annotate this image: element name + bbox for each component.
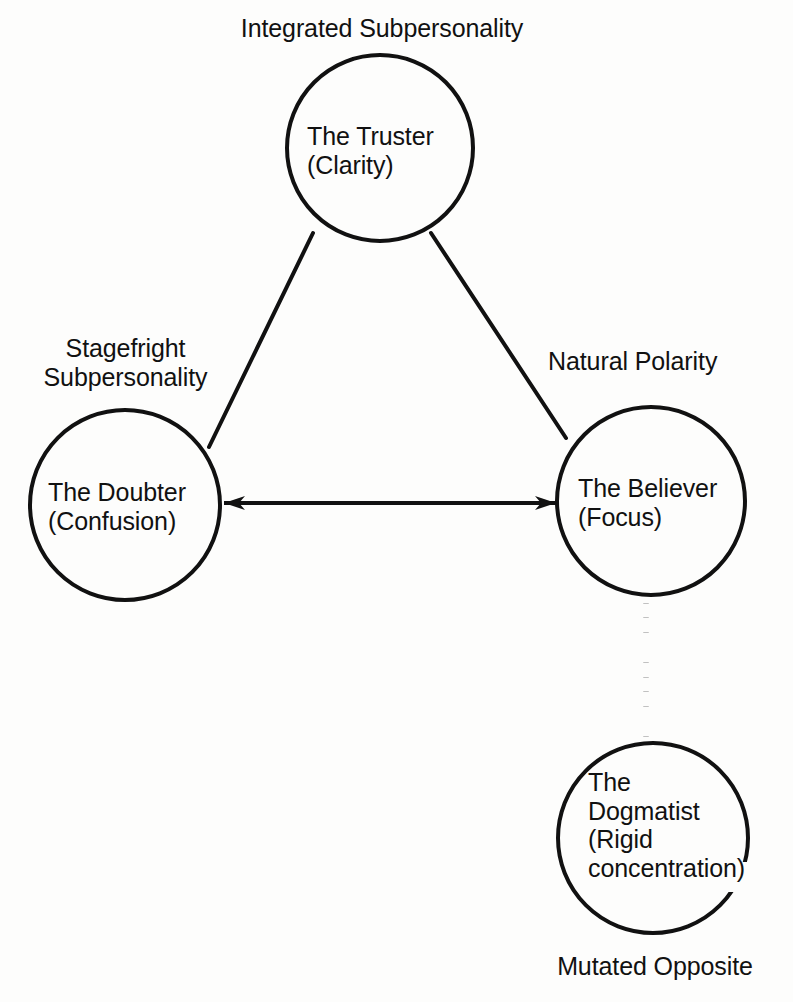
node-label-doubter-line2: (Confusion) (48, 507, 176, 535)
node-label-doubter: The Doubter (Confusion) (48, 478, 186, 535)
annotation-mutated-opposite: Mutated Opposite (530, 952, 780, 981)
annotation-stagefright-subpersonality: Stagefright Subpersonality (18, 334, 233, 391)
annotation-stagefright-line2: Subpersonality (44, 363, 208, 391)
annotation-natural-polarity: Natural Polarity (548, 347, 748, 376)
node-label-dogmatist-line4: concentration) (588, 854, 745, 882)
annotation-stagefright-line1: Stagefright (66, 334, 186, 362)
node-label-truster: The Truster (Clarity) (307, 122, 434, 179)
node-label-dogmatist-line1: The (588, 768, 631, 796)
node-label-dogmatist-line3: (Rigid (588, 825, 653, 853)
node-label-believer: The Believer (Focus) (578, 474, 717, 531)
node-label-believer-line1: The Believer (578, 474, 717, 502)
node-label-believer-line2: (Focus) (578, 503, 662, 531)
node-label-dogmatist-line2: Dogmatist (588, 797, 700, 825)
node-label-dogmatist: The Dogmatist (Rigid concentration) (588, 768, 745, 882)
node-label-doubter-line1: The Doubter (48, 478, 186, 506)
annotation-integrated-subpersonality: Integrated Subpersonality (222, 14, 542, 43)
node-label-truster-line2: (Clarity) (307, 151, 394, 179)
diagram-canvas: The Truster (Clarity) The Doubter (Confu… (0, 0, 793, 1002)
node-label-truster-line1: The Truster (307, 122, 434, 150)
edge-truster-believer (431, 233, 566, 438)
